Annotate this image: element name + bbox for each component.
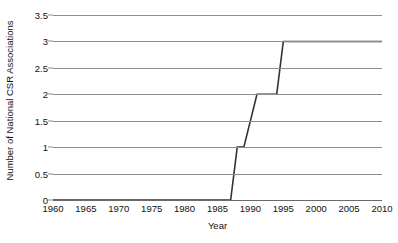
- x-axis-tick-label: 2005: [339, 203, 360, 214]
- gridline-y: [53, 121, 382, 122]
- gridline-y: [53, 174, 382, 175]
- gridline-y: [53, 15, 382, 16]
- x-axis-title: Year: [53, 220, 382, 231]
- x-axis-tick-label: 1980: [174, 203, 195, 214]
- y-axis-tick-mark: [48, 15, 53, 16]
- gridline-y: [53, 41, 382, 42]
- x-axis-tick-label: 1985: [207, 203, 228, 214]
- x-axis-tick-label: 1960: [42, 203, 63, 214]
- y-axis-tick-label: 3.5: [35, 10, 48, 21]
- y-axis-tick-label: 1.5: [35, 115, 48, 126]
- y-axis-tick-mark: [48, 200, 53, 201]
- y-axis-tick-mark: [48, 94, 53, 95]
- gridline-y: [53, 94, 382, 95]
- x-axis-tick-labels: 1960196519701975198019851990199520002005…: [53, 203, 382, 217]
- series-line: [53, 15, 382, 200]
- x-axis-tick-label: 2000: [306, 203, 327, 214]
- x-axis-tick-label: 1965: [75, 203, 96, 214]
- y-axis-tick-label: 0.5: [35, 168, 48, 179]
- y-axis-title-text: Number of National CSR Associations: [4, 20, 15, 180]
- y-axis-tick-mark: [48, 120, 53, 121]
- y-axis-tick-label: 2.5: [35, 62, 48, 73]
- x-axis-tick-label: 1990: [240, 203, 261, 214]
- x-axis-tick-label: 1995: [273, 203, 294, 214]
- y-axis-tick-mark: [48, 41, 53, 42]
- y-axis-tick-mark: [48, 147, 53, 148]
- gridline-y: [53, 68, 382, 69]
- x-axis-tick-label: 2010: [371, 203, 392, 214]
- x-axis-tick-label: 1970: [108, 203, 129, 214]
- y-axis-tick-mark: [48, 173, 53, 174]
- x-axis-tick-label: 1975: [141, 203, 162, 214]
- y-axis-tick-mark: [48, 67, 53, 68]
- y-axis-title: Number of National CSR Associations: [0, 0, 18, 200]
- plot-area: [53, 15, 382, 200]
- gridline-y: [53, 147, 382, 148]
- chart-figure: Number of National CSR Associations 00.5…: [0, 0, 398, 243]
- gridline-y: [53, 200, 382, 201]
